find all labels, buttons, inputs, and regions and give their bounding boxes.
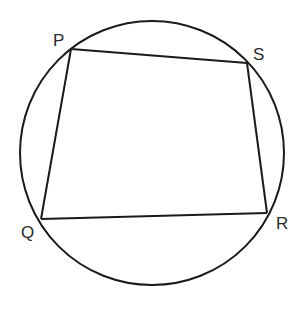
circumscribed-circle (20, 21, 284, 285)
vertex-label-s: S (253, 45, 264, 64)
vertex-label-p: P (53, 31, 64, 50)
vertex-label-r: R (276, 214, 288, 233)
vertex-label-q: Q (21, 223, 34, 242)
side-sr (247, 63, 267, 213)
side-ps (71, 49, 247, 63)
cyclic-quadrilateral-diagram: P S Q R (0, 0, 299, 309)
side-rq (41, 213, 267, 219)
